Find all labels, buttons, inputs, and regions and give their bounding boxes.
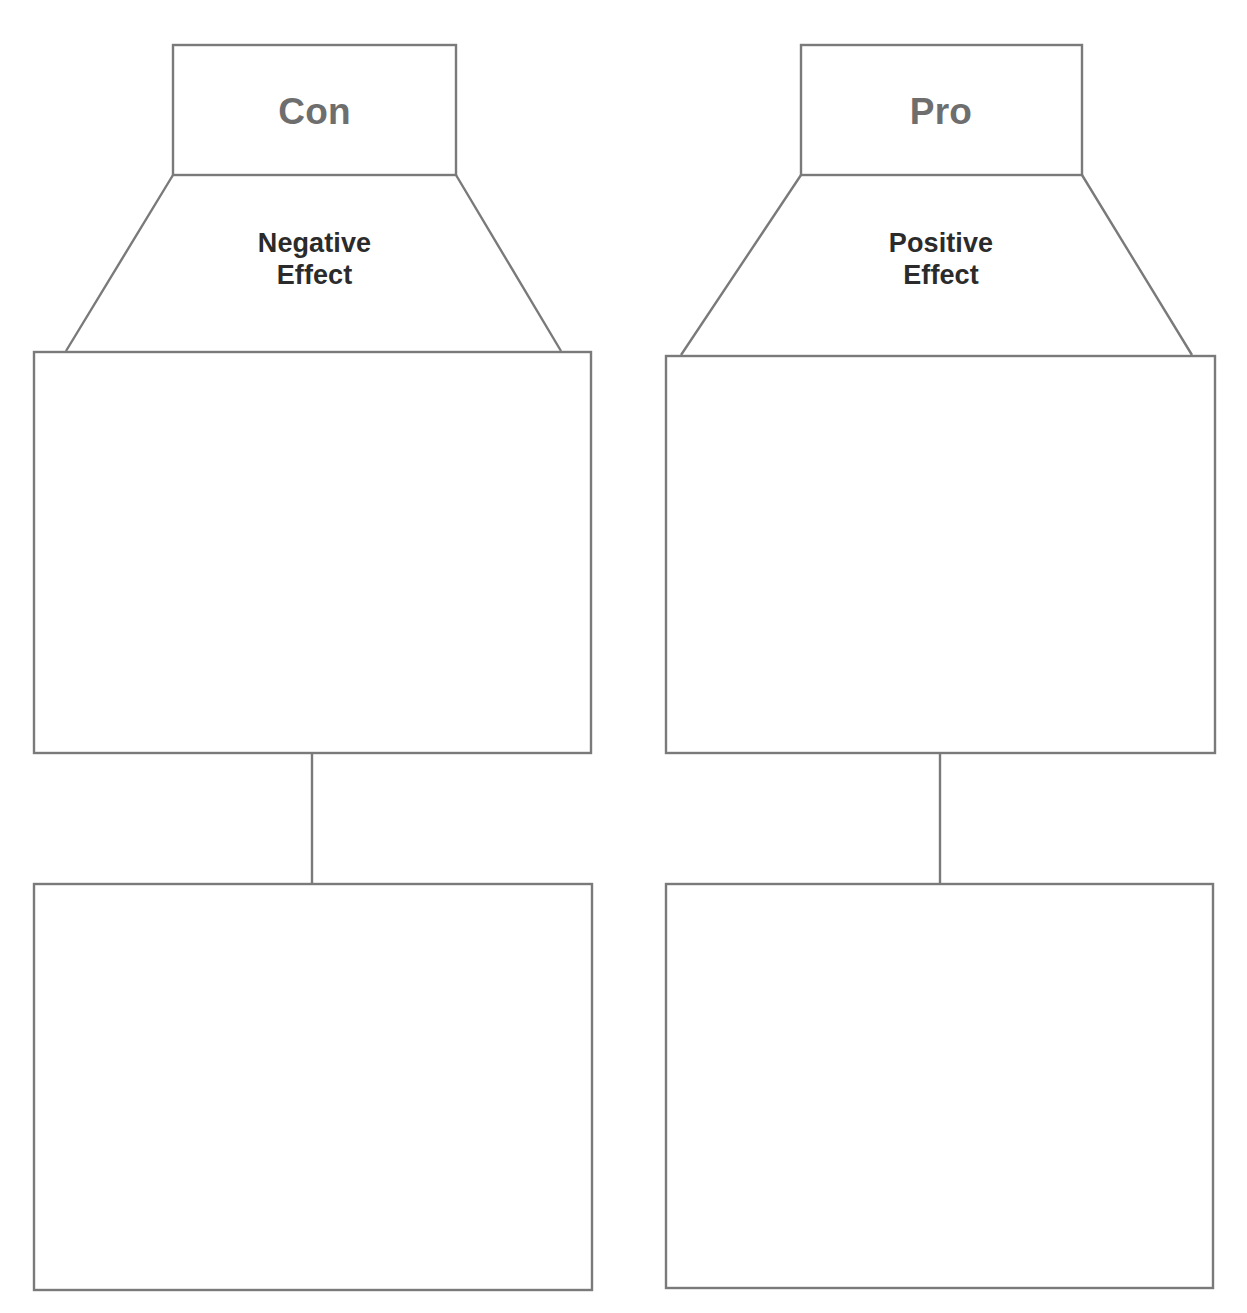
pro-effect-label: Positive Effect [800,228,1082,292]
worksheet-page: Con Negative Effect Pro Positive Effect [0,0,1247,1313]
con-evidence-box[interactable] [34,352,591,753]
pro-conclusion-box[interactable] [666,884,1213,1288]
con-header-label: Con [172,90,457,134]
organizer-diagram [0,0,1247,1313]
con-effect-label: Negative Effect [172,228,457,292]
con-conclusion-box[interactable] [34,884,592,1290]
pro-header-label: Pro [800,90,1082,134]
pro-evidence-box[interactable] [666,356,1215,753]
